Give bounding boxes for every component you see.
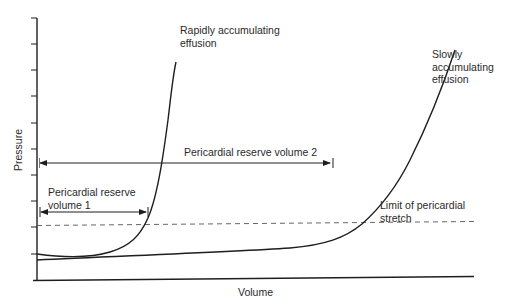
reserve-volume-2-label: Pericardial reserve volume 2 [184, 146, 317, 159]
reserve-volume-2-arrow [40, 158, 334, 168]
slow-curve-label: Slowly accumulating effusion [432, 48, 494, 86]
x-axis [33, 277, 474, 281]
reserve-volume-1-label: Pericardial reserve volume 1 [48, 186, 136, 211]
y-axis [31, 18, 37, 281]
limit-stretch-label: Limit of pericardial stretch [380, 199, 465, 224]
x-axis-label: Volume [238, 286, 273, 299]
y-axis-label: Pressure [12, 129, 24, 171]
rapid-effusion-curve [37, 62, 176, 256]
rapid-curve-label: Rapidly accumulating effusion [180, 24, 280, 49]
